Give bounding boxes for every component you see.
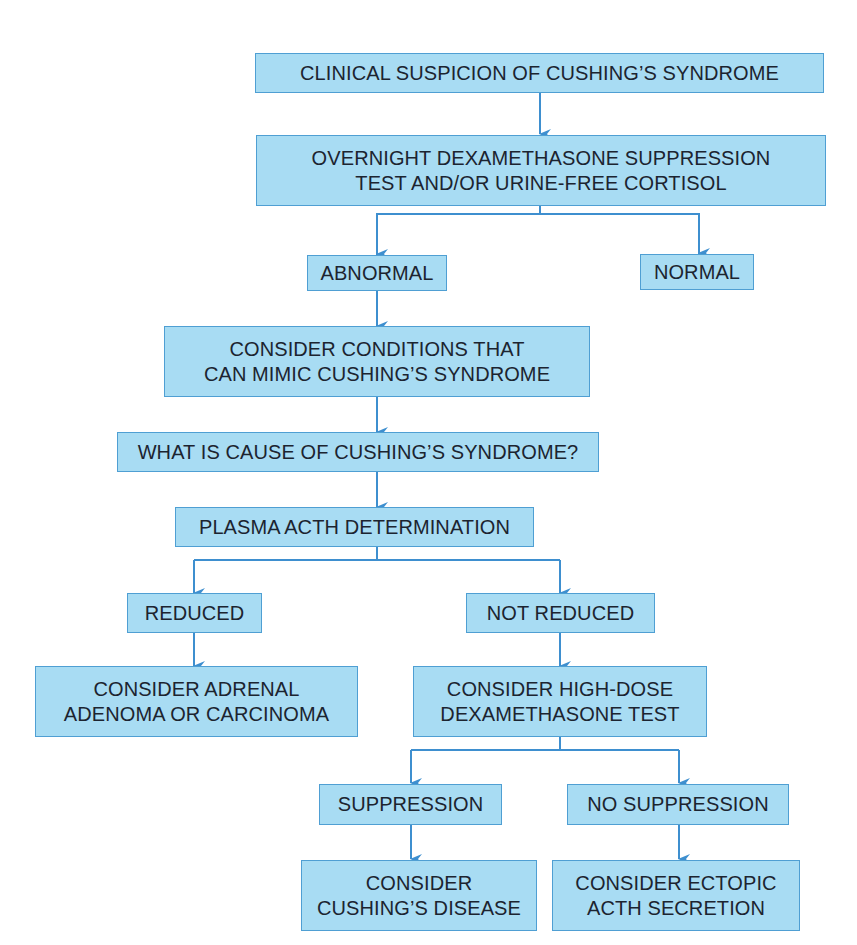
node-consider-mimic: CONSIDER CONDITIONS THAT CAN MIMIC CUSHI… [164, 326, 590, 397]
node-label: CONSIDER CUSHING’S DISEASE [317, 871, 521, 921]
node-label: WHAT IS CAUSE OF CUSHING’S SYNDROME? [138, 440, 579, 465]
node-high-dose: CONSIDER HIGH-DOSE DEXAMETHASONE TEST [413, 666, 707, 737]
node-label: NORMAL [654, 260, 740, 285]
node-cushings-disease: CONSIDER CUSHING’S DISEASE [301, 860, 537, 931]
node-not-reduced: NOT REDUCED [466, 593, 655, 633]
node-label: ABNORMAL [320, 261, 433, 286]
node-label: CONSIDER CONDITIONS THAT CAN MIMIC CUSHI… [204, 337, 550, 387]
node-label: CONSIDER ECTOPIC ACTH SECRETION [575, 871, 776, 921]
node-what-cause: WHAT IS CAUSE OF CUSHING’S SYNDROME? [117, 432, 599, 472]
node-label: OVERNIGHT DEXAMETHASONE SUPPRESSION TEST… [312, 146, 771, 196]
branch-screening [377, 214, 699, 255]
node-screening-test: OVERNIGHT DEXAMETHASONE SUPPRESSION TEST… [256, 135, 826, 206]
node-plasma-acth: PLASMA ACTH DETERMINATION [175, 507, 534, 547]
node-adrenal: CONSIDER ADRENAL ADENOMA OR CARCINOMA [35, 666, 358, 737]
node-clinical-suspicion: CLINICAL SUSPICION OF CUSHING’S SYNDROME [255, 53, 824, 93]
node-no-suppression: NO SUPPRESSION [567, 784, 789, 825]
node-label: NO SUPPRESSION [587, 792, 768, 817]
node-label: NOT REDUCED [487, 601, 634, 626]
node-abnormal: ABNORMAL [307, 255, 447, 291]
node-label: SUPPRESSION [338, 792, 484, 817]
node-label: REDUCED [145, 601, 245, 626]
node-label: PLASMA ACTH DETERMINATION [199, 515, 510, 540]
node-label: CONSIDER HIGH-DOSE DEXAMETHASONE TEST [440, 677, 679, 727]
node-label: CONSIDER ADRENAL ADENOMA OR CARCINOMA [64, 677, 329, 727]
node-suppression: SUPPRESSION [319, 784, 502, 825]
node-normal: NORMAL [640, 254, 754, 290]
node-ectopic: CONSIDER ECTOPIC ACTH SECRETION [552, 860, 800, 931]
node-label: CLINICAL SUSPICION OF CUSHING’S SYNDROME [300, 61, 779, 86]
node-reduced: REDUCED [127, 593, 262, 633]
